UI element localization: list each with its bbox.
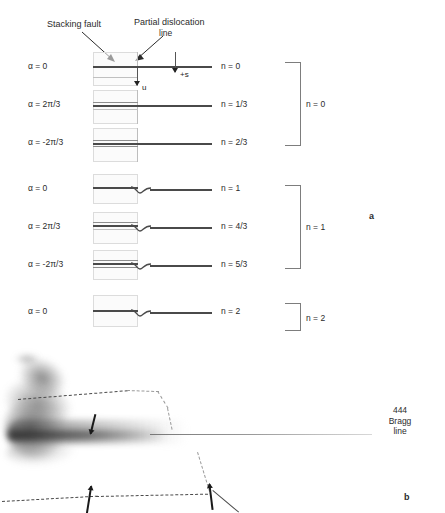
bragg-line-word-label: line [377, 426, 423, 437]
partial-dislocation-line [137, 90, 138, 124]
annotation-pointer-line [212, 490, 239, 513]
row-alpha-label: α = 0 [28, 183, 47, 194]
annotation-arrow [206, 484, 215, 511]
order-group-label: n = 1 [306, 222, 325, 233]
annotation-dashed-line [96, 494, 208, 497]
dislocation-kink [131, 258, 151, 272]
dislocation-kink [131, 305, 151, 319]
reflection-line [150, 265, 212, 267]
annotation-dashed-line [127, 390, 159, 392]
displacement-marker-label: u [142, 83, 146, 92]
reflection-line-faint [93, 102, 138, 103]
partial-dislocation-label-line1: Partial dislocation [134, 17, 205, 28]
row-n-label: n = 1/3 [221, 99, 247, 110]
topograph-image [0, 344, 372, 513]
stacking-fault-box [93, 90, 138, 124]
row-alpha-label: α = 2π/3 [28, 99, 60, 110]
stacking-fault-box [93, 52, 138, 86]
row-n-label: n = 2/3 [221, 137, 247, 148]
order-group-label: n = 2 [306, 313, 325, 324]
stacking-fault-box [93, 128, 138, 162]
row-n-label: n = 5/3 [221, 259, 247, 270]
row-n-label: n = 4/3 [221, 221, 247, 232]
order-group-label: n = 0 [306, 99, 325, 110]
partial-dislocation-line [137, 128, 138, 162]
stacking-fault-label: Stacking fault [47, 19, 101, 30]
row-alpha-label: α = 0 [28, 306, 47, 317]
reflection-line [150, 312, 212, 314]
order-group-brace [285, 185, 301, 269]
annotation-dashed-line [2, 496, 98, 502]
reflection-line-faint [93, 109, 138, 110]
row-n-label: n = 0 [221, 61, 240, 72]
bragg-word-label: Bragg [377, 416, 423, 427]
row-alpha-label: α = -2π/3 [28, 137, 63, 148]
panel-a-schematic: Stacking fault Partial dislocation line … [0, 0, 445, 340]
panel-a-letter: a [369, 211, 374, 221]
dislocation-kink [131, 182, 151, 196]
row-n-label: n = 2 [221, 306, 240, 317]
reflection-line [93, 143, 212, 145]
row-alpha-label: α = -2π/3 [28, 259, 63, 270]
annotation-arrow [84, 486, 94, 513]
figure-root: Stacking fault Partial dislocation line … [0, 0, 445, 513]
bragg-line-caption: 444 Bragg line [377, 405, 423, 437]
dislocation-kink [131, 220, 151, 234]
row-alpha-label: α = 0 [28, 61, 47, 72]
row-alpha-label: α = 2π/3 [28, 221, 60, 232]
annotation-dashed-line [157, 391, 168, 408]
reflection-line-faint [93, 146, 138, 147]
reflection-line-faint [93, 77, 138, 78]
deviation-marker-label: +s [180, 70, 189, 79]
reflection-line [150, 189, 212, 191]
panel-b-micrograph [0, 344, 372, 513]
reflection-line-faint [93, 140, 138, 141]
reflection-line [93, 105, 212, 107]
reflection-line [93, 66, 212, 68]
reflection-line [150, 227, 212, 229]
order-group-brace [285, 62, 301, 146]
bragg-line-tail [150, 434, 372, 435]
order-group-brace [285, 303, 301, 331]
row-n-label: n = 1 [221, 183, 240, 194]
diffuse-skirt [6, 440, 76, 466]
bragg-index-label: 444 [377, 405, 423, 416]
panel-b-letter: b [404, 492, 410, 502]
